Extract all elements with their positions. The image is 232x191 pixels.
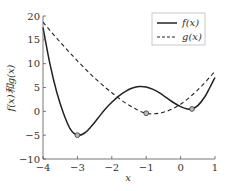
x-tick-label: −1 <box>139 162 154 173</box>
y-tick-label: −5 <box>25 130 40 141</box>
x-tick-label: 0 <box>177 162 183 173</box>
y-tick-label: 15 <box>27 34 40 45</box>
chart: −4−3−2−101−10−505101520 f(x) g(x) x f(x)… <box>0 0 232 191</box>
y-tick-label: −10 <box>19 154 40 165</box>
x-tick-label: −2 <box>104 162 119 173</box>
extremum-marker <box>75 133 80 138</box>
legend: f(x) g(x) <box>152 13 205 45</box>
extremum-marker <box>144 111 149 116</box>
y-axis-label: f(x)和g(x) <box>5 64 16 112</box>
legend-label-g: g(x) <box>182 31 202 42</box>
extremum-marker <box>190 107 195 112</box>
y-tick-label: 20 <box>27 11 40 22</box>
x-tick-label: −3 <box>70 162 85 173</box>
y-tick-label: 10 <box>27 58 40 69</box>
x-axis-label: x <box>125 172 131 183</box>
y-tick-label: 5 <box>34 82 40 93</box>
x-tick-label: 1 <box>212 162 218 173</box>
y-tick-label: 0 <box>34 106 40 117</box>
legend-label-f: f(x) <box>181 17 199 28</box>
